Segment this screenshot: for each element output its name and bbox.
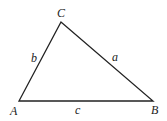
- vertex-label-b: B: [151, 103, 159, 117]
- side-label-b: b: [31, 51, 37, 65]
- triangle-abc: [19, 22, 153, 101]
- vertex-label-c: C: [57, 6, 66, 20]
- side-label-c: c: [75, 103, 81, 117]
- triangle-diagram: C A B b a c: [0, 0, 167, 121]
- side-label-a: a: [112, 50, 118, 64]
- vertex-label-a: A: [9, 104, 18, 118]
